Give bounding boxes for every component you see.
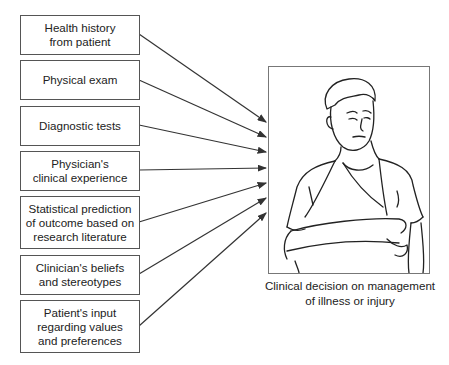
- input-label: Health history from patient: [45, 21, 116, 49]
- input-label: Clinician's beliefs and stereotypes: [36, 261, 125, 289]
- arrow-4: [139, 168, 266, 170]
- arrow-6: [139, 198, 266, 274]
- input-box-patient-input: Patient's input regarding values and pre…: [20, 300, 140, 353]
- arrow-5: [139, 183, 266, 222]
- input-label: Statistical prediction of outcome based …: [26, 202, 134, 244]
- input-box-physical-exam: Physical exam: [20, 60, 140, 100]
- input-box-beliefs-stereotypes: Clinician's beliefs and stereotypes: [20, 255, 140, 295]
- input-label: Patient's input regarding values and pre…: [37, 306, 123, 348]
- input-box-clinical-experience: Physician's clinical experience: [20, 151, 140, 191]
- decision-caption: Clinical decision on management of illne…: [255, 278, 445, 308]
- patient-illustration-panel: [268, 66, 430, 274]
- patient-with-arm-sling-icon: [269, 67, 429, 273]
- input-label: Diagnostic tests: [39, 119, 121, 133]
- input-label: Physician's clinical experience: [33, 157, 128, 185]
- input-box-health-history: Health history from patient: [20, 15, 140, 55]
- input-box-diagnostic-tests: Diagnostic tests: [20, 106, 140, 146]
- input-label: Physical exam: [43, 73, 118, 87]
- arrow-7: [139, 213, 266, 326]
- input-box-statistical-prediction: Statistical prediction of outcome based …: [20, 196, 140, 249]
